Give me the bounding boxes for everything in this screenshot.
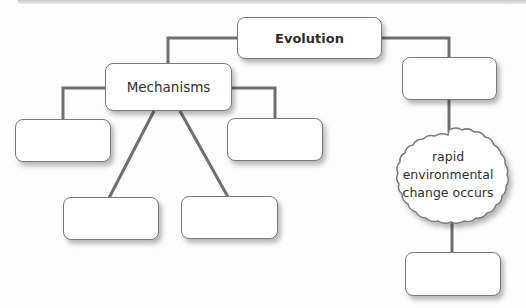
node-mechanism-bottom-left-blank[interactable] bbox=[63, 197, 159, 240]
node-mechanisms: Mechanisms bbox=[105, 63, 232, 111]
node-mechanism-right-blank[interactable] bbox=[227, 118, 323, 161]
node-evolution: Evolution bbox=[237, 17, 382, 59]
edge-mechanisms-left bbox=[63, 88, 106, 120]
edge-root-right-branch bbox=[382, 38, 449, 58]
edge-root-mechanisms bbox=[168, 38, 238, 64]
node-evolution-label: Evolution bbox=[275, 31, 344, 46]
node-event-label: rapid environmental change occurs bbox=[386, 148, 510, 202]
node-mechanism-left-blank[interactable] bbox=[15, 119, 111, 162]
node-mechanisms-label: Mechanisms bbox=[127, 79, 211, 95]
node-event-result-blank[interactable] bbox=[405, 252, 501, 296]
edge-mechanisms-right bbox=[232, 88, 275, 119]
node-right-branch-blank[interactable] bbox=[402, 57, 497, 100]
edge-mechanisms-bottom-center bbox=[180, 111, 228, 197]
concept-map-canvas: Evolution Mechanisms rapid environmental… bbox=[0, 0, 526, 308]
edge-mechanisms-bottom-left bbox=[109, 111, 154, 198]
node-mechanism-bottom-center-blank[interactable] bbox=[181, 196, 278, 239]
